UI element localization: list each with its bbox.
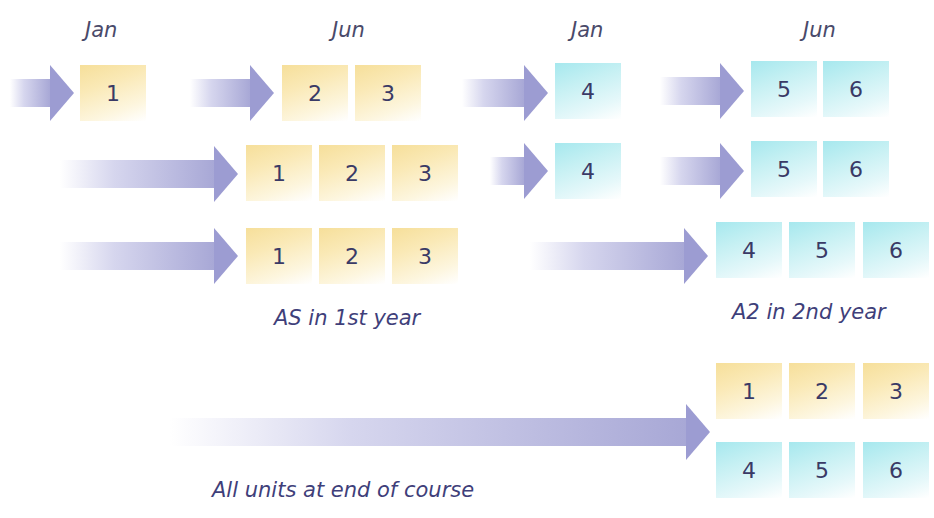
unit-box-a2: 6 <box>823 61 889 117</box>
unit-box-a2: 6 <box>863 222 929 278</box>
arrow-right-icon <box>660 143 744 199</box>
arrow-right-icon <box>490 143 548 199</box>
caption-all-units-end: All units at end of course <box>212 478 474 502</box>
arrow-right-icon <box>10 65 74 121</box>
month-label-jun-year1: Jun <box>332 18 365 42</box>
unit-box-as: 1 <box>716 363 782 419</box>
unit-box-as: 2 <box>319 145 385 201</box>
unit-box-as: 1 <box>246 228 312 284</box>
month-label-jan-year2: Jan <box>571 18 603 42</box>
unit-box-a2: 4 <box>555 63 621 119</box>
unit-box-a2: 5 <box>789 442 855 498</box>
unit-box-as: 2 <box>789 363 855 419</box>
unit-box-a2: 4 <box>716 442 782 498</box>
unit-box-as: 3 <box>392 145 458 201</box>
arrow-right-icon <box>170 404 710 460</box>
unit-box-as: 1 <box>80 65 146 121</box>
unit-box-as: 1 <box>246 145 312 201</box>
arrow-right-icon <box>60 146 238 202</box>
unit-box-as: 2 <box>319 228 385 284</box>
unit-box-a2: 5 <box>751 61 817 117</box>
unit-box-as: 3 <box>863 363 929 419</box>
arrow-right-icon <box>530 228 708 284</box>
unit-box-as: 2 <box>282 65 348 121</box>
unit-box-a2: 5 <box>751 141 817 197</box>
unit-box-as: 3 <box>355 65 421 121</box>
unit-box-a2: 6 <box>823 141 889 197</box>
month-label-jan-year1: Jan <box>85 18 117 42</box>
caption-as-first-year: AS in 1st year <box>274 306 420 330</box>
arrow-right-icon <box>660 63 744 119</box>
unit-box-a2: 4 <box>716 222 782 278</box>
caption-a2-second-year: A2 in 2nd year <box>732 300 886 324</box>
arrow-right-icon <box>190 65 274 121</box>
month-label-jun-year2: Jun <box>803 18 836 42</box>
unit-box-a2: 5 <box>789 222 855 278</box>
unit-box-a2: 4 <box>555 143 621 199</box>
unit-box-as: 3 <box>392 228 458 284</box>
unit-box-a2: 6 <box>863 442 929 498</box>
arrow-right-icon <box>60 228 238 284</box>
arrow-right-icon <box>462 65 548 121</box>
